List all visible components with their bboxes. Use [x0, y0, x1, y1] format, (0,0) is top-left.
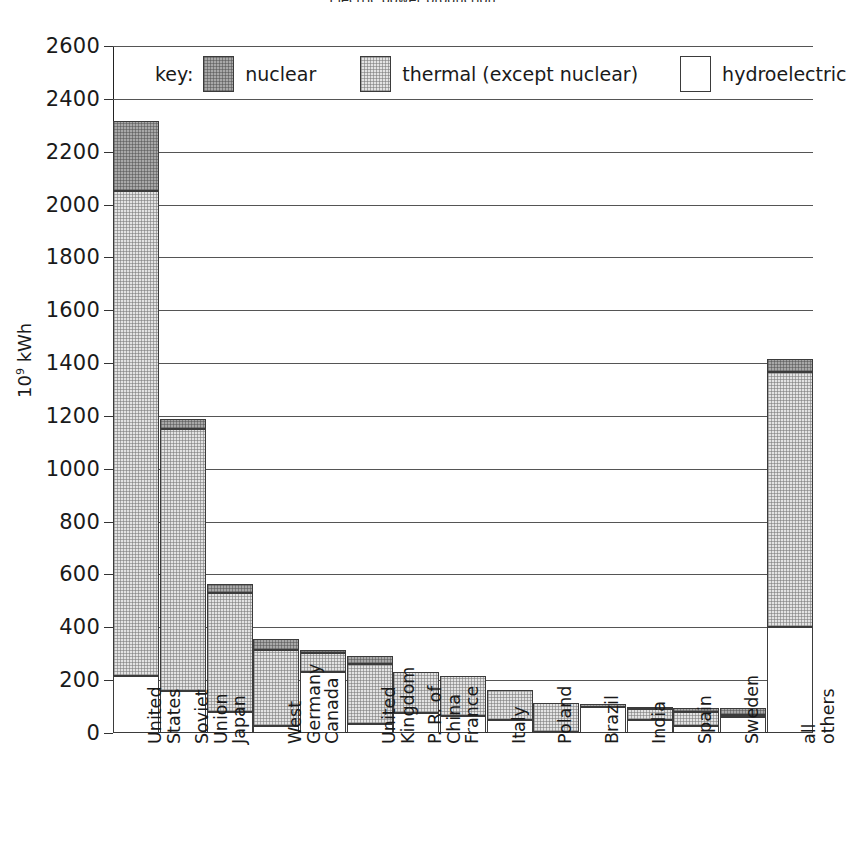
x-axis-label: United States — [146, 648, 184, 744]
y-axis-tick — [104, 733, 113, 734]
thermal-swatch — [360, 56, 391, 92]
y-axis-label-base: 10 — [14, 375, 35, 398]
bar-segment-nuclear — [207, 584, 253, 593]
y-axis-tick-label: 2200 — [46, 140, 100, 164]
bar-segment-thermal — [767, 372, 813, 628]
bar-segment-nuclear — [767, 359, 813, 372]
x-axis-label: Soviet Union — [193, 648, 231, 744]
x-axis-label: West Germany — [286, 648, 324, 744]
y-axis-tick — [104, 469, 113, 470]
x-axis-label: Poland — [556, 648, 575, 744]
hydro-swatch — [680, 56, 711, 92]
y-axis-tick-label: 2600 — [46, 34, 100, 58]
x-axis-label: India — [650, 648, 669, 744]
y-axis-tick-label: 600 — [59, 562, 100, 586]
y-axis-tick — [104, 416, 113, 417]
x-axis-label: Canada — [323, 648, 342, 744]
y-axis-tick-label: 0 — [86, 721, 100, 745]
y-axis-label: 109 kWh — [14, 323, 35, 398]
y-axis-tick-label: 1600 — [46, 298, 100, 322]
plot-area: 0200400600800100012001400160018002000220… — [113, 46, 813, 733]
y-axis-tick — [104, 46, 113, 47]
legend-item-thermal: thermal (except nuclear) — [402, 63, 638, 85]
x-axis-label: Japan — [230, 648, 249, 744]
x-axis-label: United Kingdom — [380, 648, 418, 744]
x-axis-label: all others — [800, 648, 838, 744]
x-axis-label: Brazil — [603, 648, 622, 744]
x-axis-label: P. R. of China — [426, 648, 464, 744]
y-axis-tick-label: 1000 — [46, 457, 100, 481]
legend-key-label: key: — [155, 63, 193, 85]
y-axis-tick-label: 1200 — [46, 404, 100, 428]
x-axis-label: Spain — [696, 648, 715, 744]
y-axis-tick — [104, 680, 113, 681]
y-axis-tick-label: 800 — [59, 510, 100, 534]
y-axis-tick-label: 1800 — [46, 245, 100, 269]
chart-title: Electric power production — [0, 0, 825, 2]
y-axis-tick — [104, 205, 113, 206]
y-axis-tick — [104, 257, 113, 258]
nuclear-swatch — [203, 56, 234, 92]
chart-legend: key: nuclear thermal (except nuclear) hy… — [155, 52, 800, 95]
x-axis-labels: United StatesSoviet UnionJapanWest Germa… — [113, 740, 813, 840]
bar-segment-thermal — [113, 191, 159, 676]
y-axis-tick — [104, 522, 113, 523]
legend-item-hydroelectric: hydroelectric — [722, 63, 846, 85]
bar-united-states — [113, 121, 159, 733]
x-axis-label: Sweden — [743, 648, 762, 744]
y-axis-tick — [104, 310, 113, 311]
legend-item-nuclear: nuclear — [245, 63, 316, 85]
y-axis-tick-label: 2000 — [46, 193, 100, 217]
y-axis-tick — [104, 99, 113, 100]
bar-segment-nuclear — [113, 121, 159, 192]
y-axis-tick — [104, 152, 113, 153]
y-axis-tick — [104, 627, 113, 628]
y-axis-label-exponent: 9 — [14, 368, 27, 375]
y-axis-tick-label: 400 — [59, 615, 100, 639]
y-axis-tick-label: 2400 — [46, 87, 100, 111]
bar-segment-nuclear — [160, 419, 206, 430]
bar-series-layer — [113, 46, 813, 733]
y-axis-tick — [104, 574, 113, 575]
x-axis-label: France — [463, 648, 482, 744]
y-axis-tick-label: 1400 — [46, 351, 100, 375]
y-axis-tick-label: 200 — [59, 668, 100, 692]
y-axis-tick — [104, 363, 113, 364]
y-axis-label-unit: kWh — [14, 323, 35, 368]
x-axis-label: Italy — [510, 648, 529, 744]
